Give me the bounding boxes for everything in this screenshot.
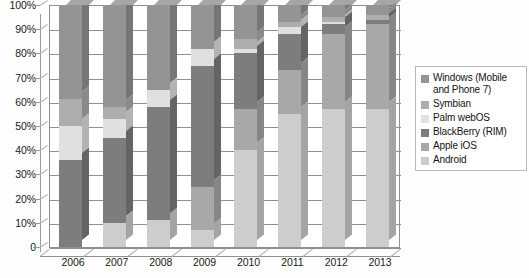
bar-segment-side-face (82, 147, 89, 240)
bar-segment[interactable] (191, 5, 214, 49)
axis-depth-connector (40, 0, 48, 6)
bar-segment[interactable] (278, 34, 301, 70)
bar-stack[interactable] (191, 5, 214, 247)
bar-segment[interactable] (103, 138, 126, 223)
bar-segment[interactable] (322, 34, 345, 109)
bar-segment-side-face (345, 97, 352, 240)
x-tick-label: 2009 (183, 256, 227, 268)
bar-segment[interactable] (59, 160, 82, 247)
bar-segment-side-face (126, 126, 133, 216)
bar-segment[interactable] (366, 109, 389, 247)
bar-segment[interactable] (59, 99, 82, 126)
bar-segment-side-face (301, 58, 308, 107)
bar-segment[interactable] (322, 5, 345, 17)
bar-segment[interactable] (103, 5, 126, 107)
x-tick-label: 2012 (314, 256, 358, 268)
bar-top-face (285, 0, 315, 5)
bar-segment[interactable] (191, 49, 214, 66)
bar-segment-side-face (214, 0, 221, 42)
bar-segment-side-face (82, 0, 89, 92)
bar-segment[interactable] (191, 187, 214, 231)
bar-top-face (241, 0, 271, 5)
x-tick-label: 2008 (139, 256, 183, 268)
bar-segment[interactable] (234, 109, 257, 150)
legend-item-label: Windows (Mobile and Phone 7) (433, 72, 522, 95)
bar-top-face (66, 0, 96, 5)
bar-segment[interactable] (103, 107, 126, 119)
bar-segment[interactable] (103, 119, 126, 138)
bar-segment[interactable] (191, 66, 214, 187)
x-tick-label: 2006 (51, 256, 95, 268)
bar-segment-side-face (301, 101, 308, 240)
bar-segment[interactable] (234, 39, 257, 49)
bar-segment[interactable] (59, 126, 82, 160)
bar-stack[interactable] (59, 5, 82, 247)
bar-segment-side-face (214, 174, 221, 223)
bar-top-face (329, 0, 359, 5)
bar-segment-side-face (389, 97, 396, 240)
x-tick-label: 2011 (270, 256, 314, 268)
bar-segment-side-face (170, 94, 177, 213)
x-tick-label: 2007 (95, 256, 139, 268)
bar-segment[interactable] (278, 114, 301, 247)
x-axis: 20062007200820092010201120122013 (0, 256, 420, 278)
chart-legend: Windows (Mobile and Phone 7)SymbianPalm … (415, 66, 527, 171)
bar-stack[interactable] (278, 5, 301, 247)
bar-segment-side-face (170, 0, 177, 83)
bar-segment[interactable] (234, 53, 257, 109)
bar-segment[interactable] (234, 5, 257, 39)
legend-item-label: Apple iOS (433, 140, 477, 152)
legend-item-label: Symbian (433, 98, 471, 110)
bar-segment-side-face (214, 53, 221, 179)
legend-item-label: BlackBerry (RIM) (433, 126, 507, 138)
y-tick-mark (33, 174, 40, 175)
legend-item[interactable]: BlackBerry (RIM) (421, 126, 522, 138)
bar-segment[interactable] (366, 24, 389, 109)
bar-segment[interactable] (322, 24, 345, 34)
legend-item-label: Palm webOS (433, 112, 490, 124)
bar-segment[interactable] (147, 5, 170, 90)
bar-stack[interactable] (366, 5, 389, 247)
bar-stack[interactable] (234, 5, 257, 247)
legend-item-label: Android (433, 154, 466, 166)
plot-area (49, 5, 400, 247)
y-axis-line (40, 14, 41, 252)
y-axis: 010%20%30%40%50%60%70%80%90%100% (0, 0, 40, 278)
bar-segment-side-face (126, 0, 133, 100)
legend-item[interactable]: Windows (Mobile and Phone 7) (421, 72, 522, 95)
stacked-bar-chart: 010%20%30%40%50%60%70%80%90%100% 2006200… (0, 0, 529, 278)
bar-segment-side-face (126, 210, 133, 240)
legend-swatch-icon (421, 129, 429, 137)
bar-segment[interactable] (59, 5, 82, 99)
legend-swatch-icon (421, 157, 429, 165)
bar-segment[interactable] (147, 107, 170, 221)
bar-segment-side-face (389, 12, 396, 102)
bar-top-face (110, 0, 140, 5)
bar-segment[interactable] (322, 109, 345, 247)
legend-swatch-icon (421, 115, 429, 123)
bar-segment[interactable] (191, 230, 214, 247)
bar-segment-side-face (257, 138, 264, 240)
legend-item[interactable]: Palm webOS (421, 112, 522, 124)
bar-segment[interactable] (147, 90, 170, 107)
x-tick-label: 2013 (358, 256, 402, 268)
legend-swatch-icon (421, 143, 429, 151)
bar-segment[interactable] (103, 223, 126, 247)
legend-item[interactable]: Symbian (421, 98, 522, 110)
bar-stack[interactable] (147, 5, 170, 247)
bar-segment[interactable] (278, 70, 301, 114)
bar-segment[interactable] (278, 5, 301, 22)
bar-stack[interactable] (103, 5, 126, 247)
bar-segment[interactable] (234, 150, 257, 247)
bar-top-face (198, 0, 228, 5)
bar-segment-side-face (214, 218, 221, 240)
x-tick-label: 2010 (226, 256, 270, 268)
legend-item[interactable]: Android (421, 154, 522, 166)
legend-swatch-icon (421, 101, 429, 109)
bar-segment[interactable] (366, 5, 389, 15)
bar-stack[interactable] (322, 5, 345, 247)
bar-segment[interactable] (278, 27, 301, 34)
bar-segment[interactable] (147, 220, 170, 247)
bar-segment-side-face (257, 41, 264, 102)
legend-item[interactable]: Apple iOS (421, 140, 522, 152)
